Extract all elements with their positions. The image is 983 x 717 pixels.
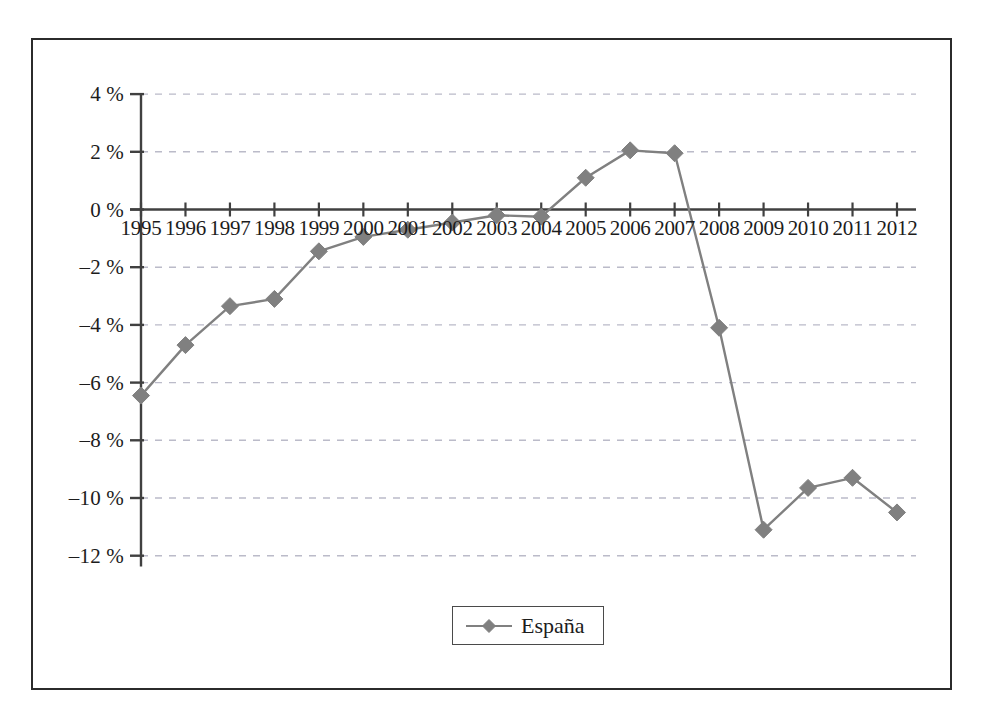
y-tick-label: –2 % <box>79 255 124 280</box>
data-point-marker <box>711 319 728 336</box>
series-line-españa <box>141 150 897 529</box>
y-tick-label: –10 % <box>69 486 124 511</box>
data-point-marker <box>666 145 683 162</box>
chart-figure: 4 %2 %0 %–2 %–4 %–6 %–8 %–10 %–12 % 1995… <box>0 0 983 717</box>
y-tick-label: –12 % <box>69 543 124 568</box>
legend-diamond-icon <box>483 619 496 632</box>
y-tick-label: –6 % <box>79 370 124 395</box>
legend-marker-icon <box>465 618 513 634</box>
y-tick-label: 2 % <box>90 139 124 164</box>
y-tick-label: 4 % <box>90 82 124 107</box>
data-point-marker <box>622 142 639 159</box>
y-tick-label: –8 % <box>79 428 124 453</box>
legend-label-espana: España <box>521 613 585 639</box>
chart-legend: España <box>452 606 604 645</box>
x-tick-label: 2012 <box>867 216 927 241</box>
y-tick-label: –4 % <box>79 312 124 337</box>
